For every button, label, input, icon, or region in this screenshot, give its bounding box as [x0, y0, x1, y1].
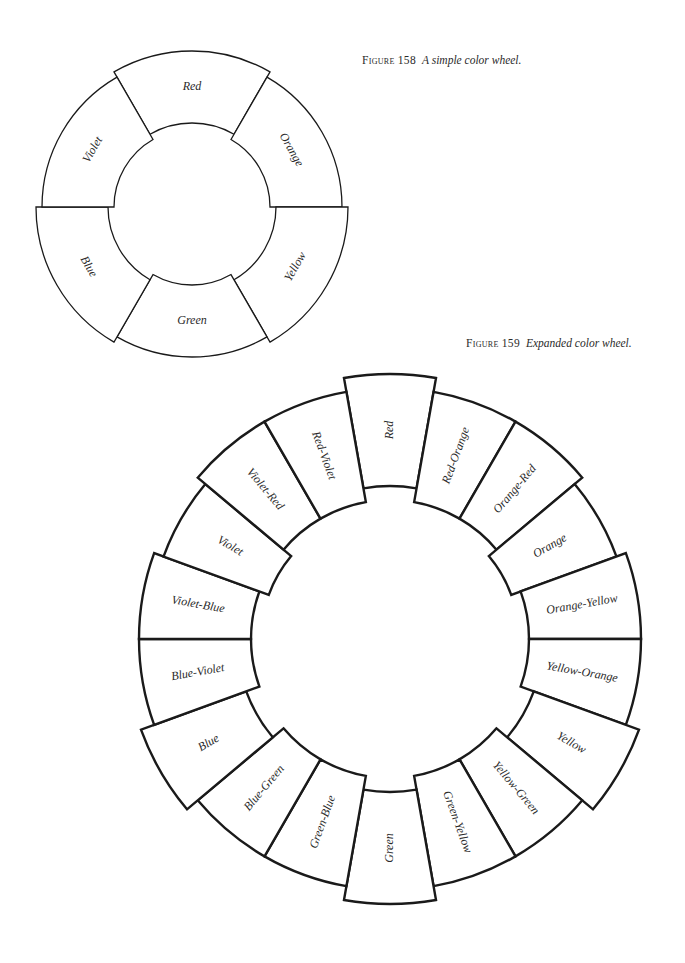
simple-color-wheel: RedOrangeYellowGreenBlueViolet: [36, 51, 348, 357]
color-wheels-diagram: RedOrangeYellowGreenBlueViolet RedRed-Or…: [0, 0, 685, 963]
segment-label-red: Red: [382, 420, 396, 441]
expanded-color-wheel: RedRed-OrangeOrange-RedOrangeOrange-Yell…: [139, 374, 641, 904]
segment-label-green: Green: [382, 833, 396, 863]
segment-label-red: Red: [182, 79, 203, 93]
segment-label-green: Green: [177, 313, 207, 327]
